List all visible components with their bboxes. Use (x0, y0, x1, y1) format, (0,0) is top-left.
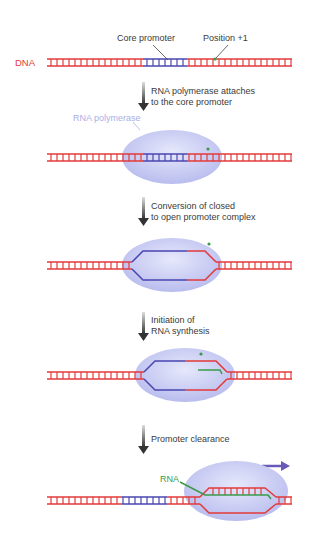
step-3-line-2: RNA synthesis (151, 326, 210, 337)
dna-row-2 (47, 122, 292, 184)
step-2-line-2: to open promoter complex (151, 212, 256, 223)
step-4-line-1: Promoter clearance (151, 434, 230, 445)
dna-row-4 (47, 348, 292, 402)
core-promoter-label: Core promoter (117, 33, 175, 44)
dna-row-5 (47, 461, 292, 521)
step-1-line-1: RNA polymerase attaches (151, 86, 255, 97)
transcription-diagram (0, 0, 315, 544)
dna-row-3 (47, 238, 292, 292)
step-2-line-1: Conversion of closed (151, 201, 235, 212)
rna-label: RNA (160, 474, 179, 485)
dna-label: DNA (15, 57, 35, 68)
dna-row-1 (47, 45, 292, 66)
step-1-line-2: to the core promoter (151, 97, 232, 108)
step-3-line-1: Initiation of (151, 315, 195, 326)
position-label: Position +1 (203, 33, 248, 44)
rna-polymerase-label: RNA polymerase (73, 113, 141, 124)
